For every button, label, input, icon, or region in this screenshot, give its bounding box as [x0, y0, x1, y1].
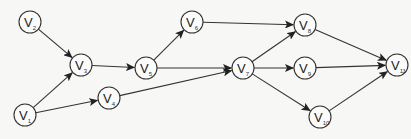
edge-v6-to-v8 — [203, 22, 294, 24]
node-v7: V7 — [232, 57, 254, 79]
edge-v1-to-v3 — [33, 73, 72, 108]
edge-v2-to-v3 — [38, 29, 72, 57]
node-v4: V4 — [98, 87, 120, 109]
edge-v7-to-v8 — [252, 32, 296, 62]
node-subscript: 10 — [323, 120, 330, 126]
node-v1: V1 — [14, 104, 36, 126]
nodes-layer: V1V2V3V4V5V6V7V8V9V10V11 — [14, 11, 408, 128]
edge-v9-to-v11 — [316, 65, 386, 67]
node-v8: V8 — [294, 14, 316, 36]
edge-v7-to-v10 — [252, 74, 310, 111]
directed-graph: V1V2V3V4V5V6V7V8V9V10V11 — [0, 0, 411, 139]
edge-v8-to-v11 — [315, 29, 386, 60]
node-v3: V3 — [70, 54, 92, 76]
node-v6: V6 — [181, 11, 203, 33]
node-v10: V10 — [309, 106, 331, 128]
node-v11: V11 — [386, 54, 408, 76]
node-v9: V9 — [294, 57, 316, 79]
edge-v1-to-v4 — [36, 100, 98, 113]
node-v2: V2 — [19, 11, 41, 33]
node-v5: V5 — [135, 57, 157, 79]
node-subscript: 11 — [400, 68, 407, 74]
edge-v10-to-v11 — [329, 71, 387, 110]
edge-v3-to-v5 — [92, 66, 135, 68]
edge-v5-to-v6 — [154, 30, 184, 60]
